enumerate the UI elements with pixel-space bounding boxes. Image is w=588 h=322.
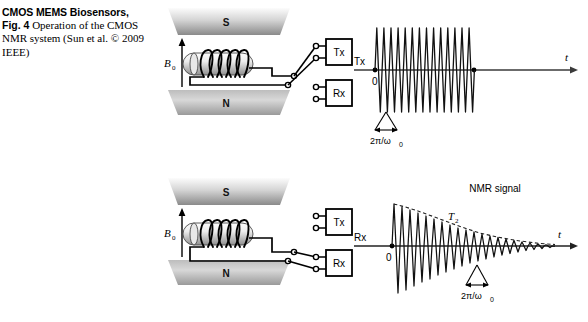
pole-label-north: N (222, 268, 229, 279)
period-label-subscript: 0 (490, 296, 494, 303)
nmr-magnet-diagram-bottom: S N B 0 (160, 175, 355, 295)
period-label: 2π/ω (370, 136, 391, 146)
field-label-b0-subscript: 0 (172, 234, 176, 242)
rx-label: Rx (333, 88, 345, 99)
time-axis-label: t (558, 228, 562, 240)
pole-label-south: S (223, 17, 230, 28)
tx-terminal-bottom (313, 55, 318, 60)
t2-label: T (448, 210, 455, 222)
tx-pulse-plot: Tx 0 t 2π/ω 0 (350, 8, 588, 158)
t2-label-subscript: 2 (455, 217, 459, 225)
tx-label: Tx (333, 47, 344, 58)
pole-label-south: S (223, 187, 230, 198)
switch-blade-b[interactable] (288, 261, 316, 269)
caption-body: Fig. 4 Operation of the CMOS NMR system … (2, 19, 152, 59)
figure-root: CMOS MEMS Biosensors, Fig. 4 Operation o… (0, 0, 588, 322)
period-indicator (374, 112, 398, 132)
field-label-b0: B (164, 57, 171, 69)
time-axis (354, 67, 578, 74)
switch-blade-b[interactable] (288, 58, 316, 85)
rx-terminal-top (313, 254, 318, 259)
tx-terminal-bottom (313, 225, 318, 230)
switch-blade-a[interactable] (294, 252, 316, 257)
tx-axis-label: Tx (354, 56, 365, 67)
figure-caption: CMOS MEMS Biosensors, Fig. 4 Operation o… (2, 6, 152, 59)
sample-tube-end (190, 223, 198, 245)
rx-terminal-bottom (313, 96, 318, 101)
nmr-signal-title: NMR signal (469, 183, 521, 194)
sample-tube-end (190, 53, 198, 75)
period-indicator (465, 265, 489, 287)
fid-waveform (392, 204, 555, 293)
rx-terminal-bottom (313, 266, 318, 271)
caption-figure-number: Fig. 4 (2, 19, 29, 31)
origin-label: 0 (372, 76, 378, 87)
period-label: 2π/ω (461, 291, 482, 301)
nmr-signal-plot: NMR signal Rx 0 t T 2 (350, 172, 588, 322)
pole-label-north: N (222, 98, 229, 109)
tx-label: Tx (333, 217, 344, 228)
field-label-b0-subscript: 0 (172, 64, 176, 72)
time-axis-label: t (565, 51, 569, 63)
tx-terminal-top (313, 213, 318, 218)
rx-label: Rx (333, 258, 345, 269)
rx-axis-label: Rx (354, 232, 366, 243)
nmr-magnet-diagram-top: S N B 0 (160, 5, 355, 125)
rx-terminal-top (313, 84, 318, 89)
period-label-subscript: 0 (399, 141, 403, 148)
origin-label: 0 (386, 252, 392, 263)
field-label-b0: B (164, 227, 171, 239)
tx-terminal-top (313, 43, 318, 48)
caption-title: CMOS MEMS Biosensors, (2, 6, 152, 19)
switch-assembly[interactable] (285, 46, 316, 88)
